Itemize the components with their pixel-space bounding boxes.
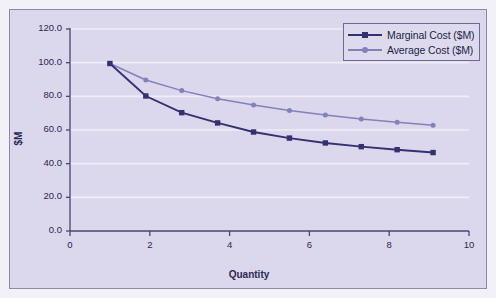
x-tick-label: 6 [289, 239, 329, 250]
chart-legend: Marginal Cost ($M) Average Cost ($M) [343, 23, 480, 61]
y-tick-label: 40.0 [10, 157, 62, 168]
x-tick-label: 8 [369, 239, 409, 250]
legend-label-marginal-cost: Marginal Cost ($M) [387, 29, 474, 41]
legend-item[interactable]: Average Cost ($M) [348, 42, 474, 57]
x-tick-label: 4 [210, 239, 250, 250]
x-tick-label: 0 [50, 239, 90, 250]
chart-screenshot: $M Quantity 0.020.040.060.080.0100.0120.… [0, 0, 496, 298]
x-tick-label: 10 [449, 239, 489, 250]
x-axis-title: Quantity [10, 269, 488, 280]
legend-swatch-average-cost [348, 44, 382, 56]
y-tick-label: 20.0 [10, 190, 62, 201]
y-tick-label: 100.0 [10, 56, 62, 67]
legend-square-marker-icon [362, 32, 368, 38]
chart-frame: $M Quantity 0.020.040.060.080.0100.0120.… [9, 9, 487, 289]
legend-circle-marker-icon [362, 47, 368, 53]
y-tick-label: 60.0 [10, 123, 62, 134]
plot-area: $M Quantity 0.020.040.060.080.0100.0120.… [10, 10, 486, 288]
legend-item[interactable]: Marginal Cost ($M) [348, 27, 474, 42]
legend-swatch-marginal-cost [348, 29, 382, 41]
y-tick-label: 120.0 [10, 22, 62, 33]
y-tick-label: 0.0 [10, 224, 62, 235]
legend-label-average-cost: Average Cost ($M) [387, 44, 473, 56]
x-tick-label: 2 [130, 239, 170, 250]
y-tick-label: 80.0 [10, 89, 62, 100]
